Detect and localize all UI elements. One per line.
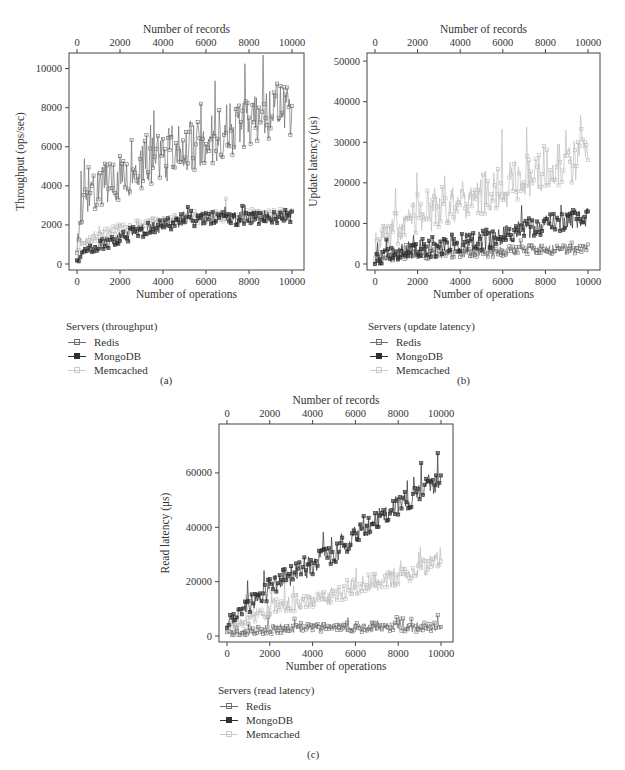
x2-tick-label: 0 [224,408,229,419]
data-point [273,576,276,579]
data-point [354,532,357,535]
data-point [262,592,265,595]
data-point [339,541,342,544]
y-tick-label: 40000 [186,522,212,533]
data-point [303,556,306,559]
data-point [403,490,406,493]
x-tick-label: 10000 [428,648,454,659]
data-point [377,525,380,528]
x-tick-label: 8000 [388,648,409,659]
data-point [230,616,233,619]
data-point [418,498,421,501]
data-point [436,452,439,455]
data-point [308,562,311,565]
data-point [362,515,365,518]
data-point [247,600,250,603]
data-point [364,532,367,535]
x2-tick-label: 10000 [428,408,454,419]
data-point [316,564,319,567]
data-point [336,542,339,545]
data-point [359,523,362,526]
data-point [252,602,255,605]
data-point [434,474,437,477]
data-point [280,578,283,581]
data-point [392,499,395,502]
data-point [390,508,393,511]
data-point [367,516,370,519]
data-point [291,578,294,581]
data-point [383,513,386,516]
legend-entry-redis: Redis [218,699,315,713]
data-point [415,491,418,494]
legend-label: Redis [246,699,271,713]
x2-tick-label: 4000 [302,408,323,419]
data-point [258,592,261,595]
data-point [268,578,271,581]
legend-entry-memcached: Memcached [218,727,315,741]
y-tick-label: 60000 [186,467,212,478]
data-point [298,561,301,564]
data-point [374,512,377,515]
data-point [232,613,235,616]
data-point [301,566,304,569]
data-point [314,559,317,562]
data-point [275,590,278,593]
x2-tick-label: 2000 [259,408,280,419]
data-point [438,481,441,484]
legend-entry-mongodb: MongoDB [218,713,315,727]
data-point [283,568,286,571]
memcached-line-marker-icon [218,729,240,739]
data-point [395,499,398,502]
data-point [311,573,314,576]
data-point [349,544,352,547]
data-point [334,560,337,563]
y-axis-label: Read latency (μs) [159,492,172,573]
data-point [365,524,368,527]
data-point [276,582,279,585]
series-mongodb [225,452,442,630]
data-point [347,547,350,550]
data-point [433,483,436,486]
plot-frame [219,424,453,642]
data-point [331,551,334,554]
x-tick-label: 6000 [345,648,366,659]
legend-title: Servers (read latency) [218,683,315,697]
data-point [304,569,307,572]
data-point [309,558,312,561]
data-point [382,509,385,512]
data-point [327,547,330,550]
series-line-mongodb [227,453,441,628]
data-point [360,527,363,530]
data-point [410,505,413,508]
x-tick-label: 0 [224,648,229,659]
chart-c-svg: 0200040006000800010000020004000600080001… [0,0,625,680]
data-point [387,518,390,521]
mongodb-line-marker-icon [218,715,240,725]
data-point [285,579,288,582]
data-point [296,567,299,570]
data-point [369,530,372,533]
data-point [357,539,360,542]
data-point [263,583,266,586]
data-point [402,496,405,499]
data-point [397,513,400,516]
data-point [290,565,293,568]
data-point [405,501,408,504]
data-point [295,562,298,565]
legend-c: Servers (read latency) Redis MongoDB Mem… [218,683,315,741]
data-point [341,536,344,539]
caption-c: (c) [307,748,319,760]
data-point [420,461,423,464]
data-point [423,483,426,486]
x2-tick-label: 8000 [388,408,409,419]
data-point [271,588,274,591]
data-point [324,547,327,550]
data-point [329,562,332,565]
data-point [326,556,329,559]
x-axis-label: Number of operations [286,660,387,673]
chart-panel-c: 0200040006000800010000020004000600080001… [0,0,625,770]
data-point [227,624,230,627]
data-point [248,611,251,614]
x2-axis-label: Number of records [293,394,380,406]
data-point [388,512,391,515]
